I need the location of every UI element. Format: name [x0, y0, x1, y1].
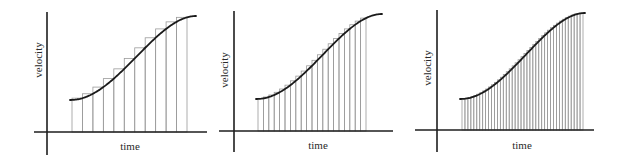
- rectangle: [500, 77, 503, 130]
- rectangle: [553, 25, 556, 130]
- rectangle: [483, 91, 486, 130]
- rectangle: [545, 33, 548, 130]
- rectangle: [124, 58, 134, 132]
- rectangles: [258, 18, 366, 131]
- velocity-curve: [460, 13, 585, 99]
- rectangle: [361, 18, 366, 131]
- rectangle: [285, 85, 290, 131]
- rectangle: [474, 96, 477, 130]
- rectangle: [530, 47, 533, 130]
- rectangle: [145, 38, 155, 132]
- x-axis-label: time: [120, 140, 140, 152]
- rectangle: [548, 30, 551, 130]
- rectangle: [82, 94, 92, 132]
- panel-fine: velocity time: [415, 10, 594, 152]
- riemann-sum-figure: velocity time velocity time velocity tim…: [0, 0, 621, 161]
- rectangle: [317, 55, 322, 131]
- rectangle: [518, 60, 521, 130]
- rectangle: [571, 15, 574, 130]
- rectangle: [574, 14, 577, 130]
- rectangle: [512, 66, 515, 130]
- rectangle: [539, 38, 542, 130]
- rectangle: [339, 34, 344, 131]
- rectangle: [506, 72, 509, 130]
- velocity-curve: [256, 14, 382, 99]
- rectangle: [301, 71, 306, 131]
- rectangle: [515, 63, 518, 130]
- rectangle: [486, 89, 489, 130]
- rectangle: [551, 28, 554, 130]
- rectangle: [355, 21, 360, 131]
- rectangle: [521, 57, 524, 130]
- rectangle: [312, 60, 317, 131]
- rectangle: [477, 94, 480, 130]
- rectangle: [497, 80, 500, 130]
- rectangle: [533, 44, 536, 130]
- rectangle: [494, 82, 497, 130]
- rectangle: [166, 22, 176, 132]
- rectangle: [556, 23, 559, 130]
- rectangle: [509, 69, 512, 130]
- rectangle: [465, 98, 468, 130]
- rectangle: [462, 99, 465, 130]
- rectangle: [263, 97, 268, 131]
- rectangle: [527, 50, 530, 130]
- rectangle: [296, 76, 301, 131]
- figure-canvas: velocity time velocity time velocity tim…: [0, 0, 621, 161]
- rectangle: [468, 98, 471, 130]
- rectangle: [323, 49, 328, 131]
- rectangle: [344, 29, 349, 131]
- panel-medium: velocity time: [218, 11, 393, 152]
- rectangle: [307, 66, 312, 131]
- rectangle: [565, 18, 568, 130]
- rectangle: [492, 85, 495, 130]
- rectangle: [577, 13, 580, 130]
- rectangle: [580, 13, 583, 130]
- rectangle: [503, 75, 506, 130]
- y-axis-label: velocity: [32, 42, 44, 78]
- rectangle: [269, 95, 274, 131]
- rectangle: [280, 89, 285, 131]
- x-axis-label: time: [512, 139, 532, 151]
- rectangle: [350, 25, 355, 131]
- x-axis-label: time: [308, 139, 328, 151]
- rectangle: [562, 19, 565, 130]
- rectangle: [471, 97, 474, 130]
- rectangle: [568, 16, 571, 130]
- rectangle: [328, 44, 333, 131]
- rectangles: [72, 17, 187, 132]
- panel-coarse: velocity time: [32, 12, 207, 155]
- rectangle: [274, 92, 279, 131]
- rectangle: [559, 21, 562, 130]
- rectangle: [290, 81, 295, 131]
- rectangle: [480, 93, 483, 130]
- rectangle: [156, 29, 166, 132]
- y-axis-label: velocity: [218, 52, 230, 88]
- rectangle: [524, 54, 527, 130]
- y-axis-label: velocity: [421, 50, 433, 86]
- rectangle: [177, 17, 187, 132]
- rectangle: [489, 87, 492, 130]
- rectangle: [542, 36, 545, 130]
- rectangles: [462, 13, 583, 130]
- rectangle: [135, 48, 145, 132]
- rectangle: [334, 39, 339, 131]
- rectangle: [72, 98, 82, 132]
- rectangle: [536, 41, 539, 130]
- rectangle: [258, 98, 263, 131]
